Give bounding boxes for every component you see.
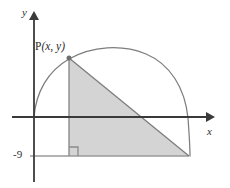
point-p-marker (67, 56, 72, 61)
math-figure: y x P(x, y) -9 (0, 0, 230, 188)
point-label-coords: (x, y) (41, 40, 65, 52)
x-axis-arrowhead (206, 112, 215, 122)
point-label: P(x, y) (35, 41, 65, 53)
figure-canvas (0, 0, 230, 188)
y-axis-label: y (22, 7, 27, 18)
y-tick-label-neg9: -9 (13, 149, 22, 160)
y-axis-arrowhead (29, 11, 39, 20)
x-axis-label: x (207, 126, 212, 137)
